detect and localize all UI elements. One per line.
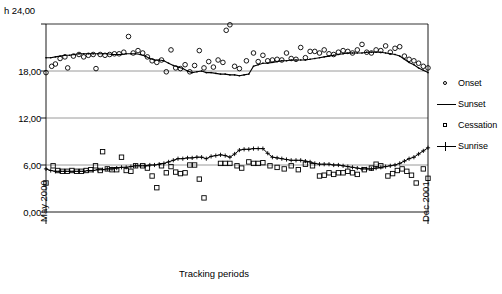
series-sunset-line <box>46 52 428 75</box>
series-onset-markers <box>44 23 431 75</box>
x-tick-label-left: May 2000 <box>38 180 49 222</box>
legend-label-sunrise: Sunrise <box>456 141 488 151</box>
legend-item-cessation: Cessation <box>437 114 502 135</box>
plot-canvas <box>0 0 502 294</box>
open-circle-icon <box>437 77 456 89</box>
open-square-icon <box>437 119 456 131</box>
legend-item-sunrise: Sunrise <box>437 135 502 156</box>
legend-label-onset: Onset <box>456 78 482 88</box>
legend-item-onset: Onset <box>437 72 502 93</box>
chart-legend: Onset Sunset Cessation Sunrise <box>437 72 502 156</box>
chart-root: h 24,00 18,00 12,00 6,00 0,00 <box>0 0 502 294</box>
legend-item-sunset: Sunset <box>437 93 502 114</box>
series-cessation-markers <box>44 150 430 201</box>
x-axis-title: Tracking periods <box>0 268 428 279</box>
legend-label-cessation: Cessation <box>456 120 497 130</box>
x-tick-label-right: Dec 2001 <box>420 181 431 222</box>
legend-label-sunset: Sunset <box>456 99 485 109</box>
line-icon <box>437 98 456 110</box>
line-plus-icon <box>437 140 456 152</box>
